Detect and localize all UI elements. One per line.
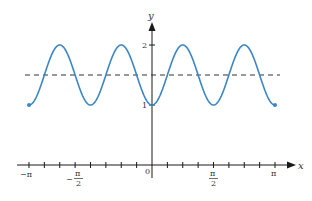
x-tick-label-zero: 0: [145, 167, 150, 176]
x-tick-label-half-pi-den: 2: [211, 179, 216, 188]
x-tick-label-neg-half-pi-den: 2: [76, 179, 81, 188]
endpoint-dot-left: [27, 103, 31, 107]
x-axis-arrow-icon: [287, 162, 296, 169]
x-tick-label-neg-sign: −: [66, 175, 73, 184]
y-axis-label: y: [147, 10, 154, 21]
y-tick-label-2: 2: [142, 41, 147, 50]
x-tick-label-pi: π: [271, 169, 276, 178]
endpoint-dot-right: [273, 103, 277, 107]
x-axis-label: x: [298, 160, 304, 171]
chart: x y 2 1 −π π − 2 0 π 2 π: [0, 0, 312, 201]
x-tick-label-neg-half-pi-num: π: [75, 169, 80, 178]
x-tick-label-neg-pi: −π: [20, 170, 32, 179]
y-tick-label-1: 1: [142, 101, 147, 110]
y-axis-arrow-icon: [149, 22, 156, 31]
x-tick-label-half-pi-num: π: [210, 169, 215, 178]
